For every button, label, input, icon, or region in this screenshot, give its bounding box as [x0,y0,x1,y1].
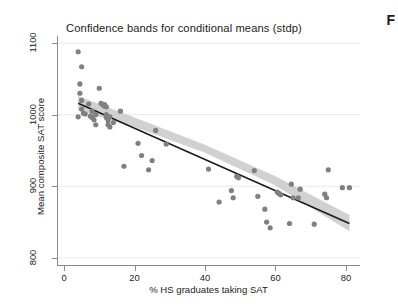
data-point [76,49,81,54]
data-point [206,167,211,172]
data-point [79,98,84,103]
data-point [79,64,84,69]
data-point [324,195,329,200]
x-axis-line [57,265,360,266]
page-caption-fragment: F [386,12,395,28]
data-point [104,104,109,109]
data-point [264,219,269,224]
data-point [139,153,144,158]
x-tick-label: 60 [260,272,290,283]
data-point [77,91,82,96]
data-point [97,86,102,91]
data-point [216,199,221,204]
x-tick-label: 20 [120,272,150,283]
regression-fit-line [78,103,349,223]
data-point [312,222,317,227]
data-point [298,187,303,192]
data-point [135,141,140,146]
data-point [340,185,345,190]
data-point [229,188,234,193]
data-point [91,117,96,122]
plot-graphics [57,36,360,265]
data-point [107,114,112,119]
data-point [111,120,116,125]
data-point [289,182,294,187]
x-axis-title: % HS graduates taking SAT [57,284,360,295]
data-point [236,175,241,180]
data-point [153,128,158,133]
data-point [326,167,331,172]
data-point [76,114,81,119]
data-point [231,195,236,200]
data-point [278,192,283,197]
x-tick-label: 0 [49,272,79,283]
data-point [255,194,260,199]
y-tick-mark [52,115,57,116]
data-point [164,141,169,146]
y-tick-label: 1100 [27,28,38,58]
data-point [268,225,273,230]
figure-page: F Confidence bands for conditional means… [0,0,398,306]
data-point [146,167,151,172]
x-tick-label: 40 [190,272,220,283]
y-tick-mark [52,43,57,44]
data-point [107,124,112,129]
data-point [252,168,257,173]
data-point [150,158,155,163]
plot-area [57,36,360,265]
y-axis-title: Mean composite SAT score [35,77,46,237]
x-tick-mark [205,266,206,271]
y-tick-mark [52,186,57,187]
y-tick-mark [52,258,57,259]
chart-title: Confidence bands for conditional means (… [8,22,360,34]
data-point [93,122,98,127]
data-point [296,195,301,200]
data-point [118,109,123,114]
x-tick-mark [64,266,65,271]
data-point [86,101,91,106]
x-tick-label: 80 [331,272,361,283]
data-point [290,195,295,200]
scatter-plot-figure: Confidence bands for conditional means (… [8,10,360,296]
data-point [83,111,88,116]
x-tick-mark [135,266,136,271]
data-point [287,221,292,226]
y-axis-line [57,36,58,266]
data-point [93,112,98,117]
y-tick-label: 800 [27,242,38,272]
x-tick-mark [275,266,276,271]
data-point [347,185,352,190]
data-point [77,81,82,86]
data-point [121,164,126,169]
x-tick-mark [346,266,347,271]
data-point [262,207,267,212]
